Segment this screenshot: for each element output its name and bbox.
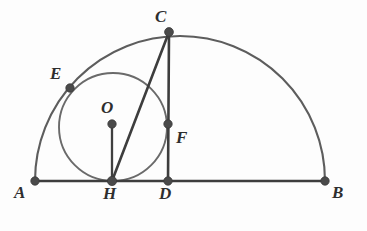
vertex-dot-e xyxy=(66,84,74,92)
geometry-figure: A B C D E F H O xyxy=(0,0,367,231)
point-label-e: E xyxy=(50,65,61,82)
point-label-a: A xyxy=(14,184,25,201)
point-label-b: B xyxy=(332,184,343,201)
geometry-canvas xyxy=(0,0,367,231)
point-label-c: C xyxy=(155,8,166,25)
vertex-dot-f xyxy=(164,120,172,128)
point-label-h: H xyxy=(103,185,116,202)
point-label-d: D xyxy=(159,185,171,202)
vertex-dot-o xyxy=(108,120,116,128)
vertex-dot-a xyxy=(31,177,39,185)
point-label-o: O xyxy=(101,99,113,116)
vertex-dot-b xyxy=(321,177,329,185)
vertex-dot-c xyxy=(165,28,174,37)
segment-cd xyxy=(168,32,169,181)
segment-ch xyxy=(112,32,169,181)
semicircle-arc-ab xyxy=(35,36,325,181)
point-label-f: F xyxy=(176,129,187,146)
